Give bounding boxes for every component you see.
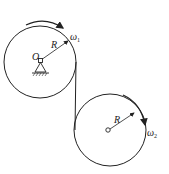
pulley-1: O R ω1 (4, 21, 80, 98)
pulley-diagram: O R ω1 R ω2 (0, 0, 169, 174)
center-label: O (32, 51, 39, 62)
omega-label-2: ω2 (147, 127, 157, 139)
radius-label-1: R (50, 39, 57, 50)
omega-label-1: ω1 (70, 31, 80, 43)
rotation-arrow-2 (123, 95, 145, 125)
radius-label-2: R (113, 114, 120, 125)
pulley-2: R ω2 (74, 94, 157, 166)
axle-2 (106, 128, 110, 132)
